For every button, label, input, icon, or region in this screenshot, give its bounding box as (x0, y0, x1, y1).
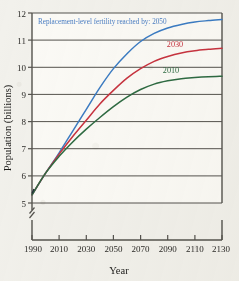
y-tick-label-6: 6 (22, 171, 27, 181)
population-projection-chart: 12 11 10 9 8 7 6 5 1990 2010 (0, 0, 239, 281)
chart-svg: 12 11 10 9 8 7 6 5 1990 2010 (0, 0, 239, 281)
x-tick-label-2010: 2010 (50, 244, 69, 254)
y-tick-label-8: 8 (22, 117, 27, 127)
y-tick-label-5: 5 (22, 199, 27, 209)
x-tick-label-2130: 2130 (212, 244, 231, 254)
y-axis-break (30, 203, 35, 240)
y-tick-label-10: 10 (17, 63, 27, 73)
x-tick-label-1990: 1990 (24, 244, 43, 254)
annotation-replacement-level: Replacement-level fertility reached by: … (38, 18, 167, 26)
x-tick-label-2090: 2090 (159, 244, 178, 254)
x-tick-label-2050: 2050 (104, 244, 123, 254)
series-label-2030: 2030 (167, 40, 183, 49)
x-axis-title: Year (109, 265, 129, 276)
x-ticks (32, 235, 222, 240)
plot-background (32, 13, 222, 203)
series-label-2010: 2010 (163, 66, 179, 75)
y-axis-title: Population (billions) (2, 84, 14, 171)
y-tick-label-11: 11 (17, 36, 26, 46)
y-tick-label-7: 7 (22, 144, 27, 154)
x-tick-label-2070: 2070 (132, 244, 151, 254)
x-tick-label-2110: 2110 (186, 244, 204, 254)
y-tick-label-12: 12 (17, 9, 26, 19)
y-tick-label-9: 9 (22, 90, 27, 100)
x-tick-label-2030: 2030 (77, 244, 96, 254)
